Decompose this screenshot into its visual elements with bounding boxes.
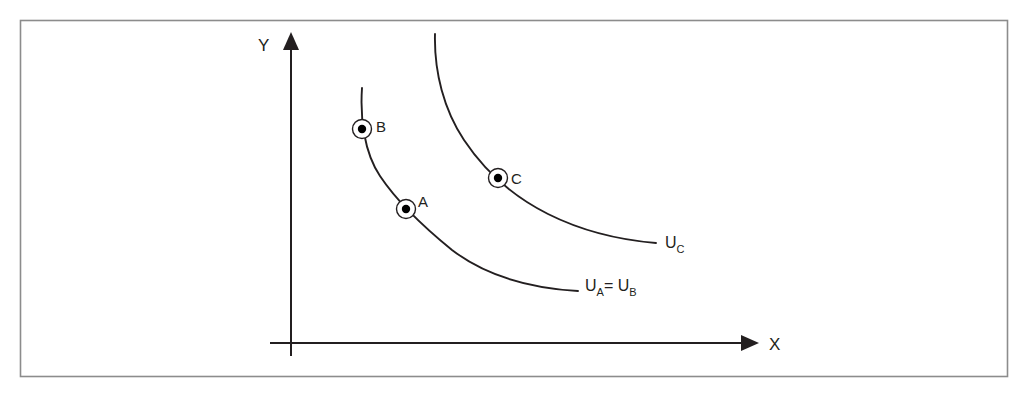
curve-label-ua-ub-u1: U	[585, 277, 597, 294]
curve-label-ua-ub-sub-b: B	[629, 286, 636, 298]
curve-label-ua-ub-equals: = U	[604, 277, 629, 294]
figure-root: Y X B A C UA= UB	[0, 0, 1024, 396]
curve-label-uc-sub-c: C	[677, 243, 685, 255]
point-marker-a[interactable]	[397, 200, 416, 219]
y-axis-label: Y	[258, 36, 269, 55]
point-label-c: C	[511, 170, 522, 187]
point-label-a: A	[418, 193, 428, 210]
x-axis-label: X	[769, 335, 780, 354]
curve-label-uc-u: U	[665, 234, 677, 251]
indifference-curve-diagram: Y X B A C UA= UB	[0, 0, 1024, 396]
point-a-dot	[402, 205, 410, 213]
point-marker-b[interactable]	[353, 120, 372, 139]
point-b-dot	[358, 125, 366, 133]
point-marker-c[interactable]	[489, 169, 508, 188]
point-c-dot	[494, 174, 502, 182]
figure-border	[21, 21, 1008, 377]
point-label-b: B	[376, 118, 386, 135]
